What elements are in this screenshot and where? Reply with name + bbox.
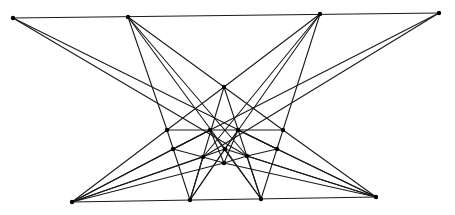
line-P1-E [72,130,167,202]
point-P3 [236,128,240,132]
point-D [437,11,441,15]
line-R1-S [203,157,224,163]
line-Q1-R1 [173,149,203,157]
line-E-S [72,163,224,202]
point-G [259,197,263,201]
point-S [222,161,226,165]
line-B-T [128,17,224,87]
point-R1 [201,155,205,159]
point-F [188,198,192,202]
point-Q3 [275,147,279,151]
line-C-T [224,14,320,87]
point-H [374,195,378,199]
line-E-H [72,197,376,202]
line-D-R1 [203,13,439,157]
point-P1 [165,128,169,132]
line-C-R1 [203,14,320,157]
point-P4 [281,128,285,132]
line-Q3-R2 [247,149,277,156]
point-A [11,16,15,20]
point-Q2 [223,147,227,151]
line-Q1-P2 [173,130,210,149]
point-T [222,85,226,89]
line-configuration-diagram [0,0,455,215]
point-P2 [208,128,212,132]
line-B-P1 [128,17,167,130]
line-C-P4 [283,14,320,130]
point-E [70,200,74,204]
point-R2 [245,154,249,158]
point-B [126,15,130,19]
line-T-F [190,87,224,200]
line-A-D [13,13,439,18]
point-C [318,12,322,16]
line-B-R2 [128,17,247,156]
diagram-lines [13,13,439,202]
line-T-P1 [167,87,224,130]
diagram-points [11,11,441,204]
point-Q1 [171,147,175,151]
line-R2-S [224,156,247,163]
